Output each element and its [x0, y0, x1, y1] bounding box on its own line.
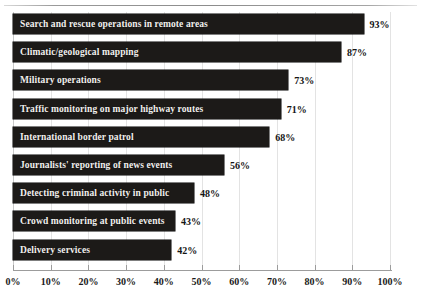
- x-axis-tick: [13, 265, 14, 271]
- x-axis-tick-label: 10%: [41, 276, 61, 287]
- x-axis-tick: [88, 265, 89, 271]
- bar-category-label: Delivery services: [20, 245, 90, 255]
- bar-row[interactable]: Delivery services42%: [13, 240, 390, 260]
- x-axis-tick: [239, 265, 240, 271]
- bar-value-label: 42%: [177, 244, 197, 255]
- bar-row[interactable]: Crowd monitoring at public events43%: [13, 211, 390, 231]
- bar[interactable]: Military operations: [13, 70, 288, 90]
- bar-chart: Search and rescue operations in remote a…: [0, 0, 421, 305]
- bar-row[interactable]: Detecting criminal activity in public48%: [13, 183, 390, 203]
- bar[interactable]: Search and rescue operations in remote a…: [13, 14, 364, 34]
- bar-value-label: 87%: [347, 47, 367, 58]
- bar-value-label: 56%: [230, 160, 250, 171]
- bar-row[interactable]: International border patrol68%: [13, 127, 390, 147]
- x-axis-tick-label: 50%: [192, 276, 212, 287]
- x-axis-tick: [352, 265, 353, 271]
- bar-value-label: 71%: [287, 103, 307, 114]
- bar-value-label: 68%: [275, 131, 295, 142]
- bar-category-label: Detecting criminal activity in public: [20, 188, 169, 198]
- gridline-100pct: [390, 12, 391, 270]
- bar[interactable]: Traffic monitoring on major highway rout…: [13, 99, 281, 119]
- bar[interactable]: Detecting criminal activity in public: [13, 183, 194, 203]
- bar-row[interactable]: Traffic monitoring on major highway rout…: [13, 99, 390, 119]
- x-axis-tick-label: 60%: [229, 276, 249, 287]
- bar-category-label: Traffic monitoring on major highway rout…: [20, 104, 203, 114]
- x-axis-tick-label: 20%: [78, 276, 98, 287]
- bar-value-label: 48%: [200, 188, 220, 199]
- bar-row[interactable]: Search and rescue operations in remote a…: [13, 14, 390, 34]
- x-axis-tick-label: 80%: [305, 276, 325, 287]
- bar-value-label: 43%: [181, 216, 201, 227]
- x-axis-tick: [51, 265, 52, 271]
- bar-category-label: Crowd monitoring at public events: [20, 216, 165, 226]
- bar-value-label: 73%: [294, 75, 314, 86]
- bar-row[interactable]: Journalists' reporting of news events56%: [13, 155, 390, 175]
- bar[interactable]: Journalists' reporting of news events: [13, 155, 224, 175]
- x-axis-tick: [277, 265, 278, 271]
- x-axis-tick-label: 90%: [342, 276, 362, 287]
- x-axis-tick: [202, 265, 203, 271]
- bar-value-label: 93%: [370, 19, 390, 30]
- bar-row[interactable]: Climatic/geological mapping87%: [13, 42, 390, 62]
- bar-category-label: Military operations: [20, 75, 101, 85]
- x-axis-tick: [390, 265, 391, 271]
- x-axis-tick-label: 100%: [378, 276, 403, 287]
- x-axis-tick-label: 40%: [154, 276, 174, 287]
- x-axis-tick: [164, 265, 165, 271]
- x-axis-tick: [126, 265, 127, 271]
- x-axis-tick-label: 0%: [6, 276, 21, 287]
- top-divider-rule: [4, 5, 417, 6]
- plot-area: Search and rescue operations in remote a…: [13, 12, 390, 270]
- bar[interactable]: International border patrol: [13, 127, 269, 147]
- bar-category-label: Journalists' reporting of news events: [20, 160, 172, 170]
- bar[interactable]: Climatic/geological mapping: [13, 42, 341, 62]
- bar[interactable]: Delivery services: [13, 240, 171, 260]
- bar[interactable]: Crowd monitoring at public events: [13, 211, 175, 231]
- bar-row[interactable]: Military operations73%: [13, 70, 390, 90]
- bar-category-label: Climatic/geological mapping: [20, 47, 139, 57]
- x-axis-tick-label: 30%: [116, 276, 136, 287]
- x-axis-tick: [315, 265, 316, 271]
- x-axis-line: [13, 270, 392, 271]
- bar-category-label: International border patrol: [20, 132, 134, 142]
- bar-category-label: Search and rescue operations in remote a…: [20, 19, 208, 29]
- x-axis-tick-label: 70%: [267, 276, 287, 287]
